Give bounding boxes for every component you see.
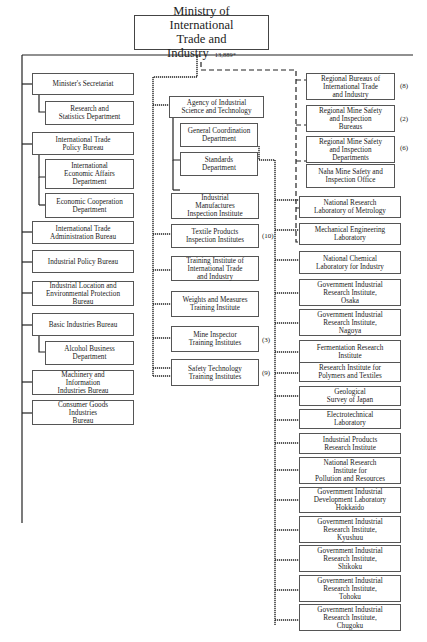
- box-label: Government Industrial Development Labora…: [314, 488, 386, 512]
- box-label: Safety Technology Training Institutes: [188, 365, 242, 381]
- box-label: International Trade Administration Burea…: [50, 225, 116, 241]
- box-label: International Trade Policy Bureau: [56, 136, 111, 152]
- bureau-industrial-location-environmental[interactable]: Industrial Location and Environmental Pr…: [32, 281, 134, 306]
- bureau-ministers-secretariat[interactable]: Minister's Secretariat: [32, 73, 134, 95]
- count-mine-safety-bureaus: (2): [400, 115, 408, 123]
- institute-industrial-manufactures-inspection[interactable]: Industrial Manufactures Inspection Insti…: [171, 193, 259, 219]
- agency-industrial-science-technology[interactable]: Agency of Industrial Science and Technol…: [169, 96, 264, 118]
- research-gov-chugoku[interactable]: Government Industrial Research Institute…: [299, 604, 401, 631]
- branch-regional-mine-safety-bureaus[interactable]: Regional Mine Safety and Inspection Bure…: [306, 105, 395, 132]
- box-label: Mechanical Engineering Laboratory: [315, 226, 385, 242]
- research-geological-survey[interactable]: Geological Survey of Japan: [299, 386, 401, 406]
- research-gov-tohoku[interactable]: Government Industrial Research Institute…: [299, 575, 401, 602]
- box-label: Minister's Secretariat: [53, 80, 114, 88]
- box-label: Machinery and Information Industries Bur…: [58, 371, 109, 395]
- ministry-name-line1: Ministry of International: [141, 4, 262, 32]
- count-mine-inspector: (3): [262, 336, 270, 344]
- box-label: Regional Bureaus of International Trade …: [321, 75, 380, 99]
- box-label: Mine Inspector Training Institutes: [189, 331, 242, 347]
- box-label: National Chemical Laboratory for Industr…: [316, 255, 384, 271]
- box-label: Research and Statistics Department: [59, 105, 121, 121]
- count-textile-inspection: (10): [262, 232, 274, 240]
- box-label: National Research Laboratory of Metrolog…: [314, 199, 386, 215]
- box-label: Basic Industries Bureau: [49, 321, 118, 329]
- research-metrology[interactable]: National Research Laboratory of Metrolog…: [299, 196, 401, 218]
- box-label: Weights and Measures Training Institute: [183, 296, 248, 312]
- research-electrotechnical[interactable]: Electrotechnical Laboratory: [299, 409, 401, 429]
- box-label: General Coordination Department: [188, 127, 250, 143]
- box-label: Research Institute for Polymers and Text…: [318, 364, 382, 380]
- research-fermentation[interactable]: Fermentation Research Institute: [299, 340, 401, 363]
- bureau-international-trade-administration[interactable]: International Trade Administration Burea…: [32, 221, 134, 244]
- box-label: Consumer Goods Industries Bureau: [58, 401, 108, 425]
- dept-general-coordination[interactable]: General Coordination Department: [180, 123, 258, 147]
- bureau-international-trade-policy[interactable]: International Trade Policy Bureau: [32, 132, 134, 155]
- dept-standards[interactable]: Standards Department: [180, 152, 258, 176]
- box-label: Industrial Products Research Institute: [323, 436, 378, 452]
- research-gov-osaka[interactable]: Government Industrial Research Institute…: [299, 279, 401, 306]
- box-label: International Economic Affairs Departmen…: [64, 162, 115, 186]
- box-label: Government Industrial Research Institute…: [317, 518, 382, 542]
- research-polymers-textiles[interactable]: Research Institute for Polymers and Text…: [299, 362, 401, 382]
- count-safety-technology: (9): [262, 369, 270, 377]
- box-label: Government Industrial Research Institute…: [317, 547, 382, 571]
- box-label: Economic Cooperation Department: [56, 198, 122, 214]
- research-industrial-products[interactable]: Industrial Products Research Institute: [299, 433, 401, 454]
- dept-alcohol-business[interactable]: Alcohol Business Department: [45, 341, 134, 365]
- research-gov-shikoku[interactable]: Government Industrial Research Institute…: [299, 545, 401, 572]
- box-label: Industrial Policy Bureau: [48, 258, 118, 266]
- box-label: Government Industrial Research Institute…: [317, 311, 382, 335]
- branch-regional-mine-safety-departments[interactable]: Regional Mine Safety and Inspection Depa…: [306, 136, 395, 163]
- dept-research-statistics[interactable]: Research and Statistics Department: [45, 101, 134, 125]
- ministry-staff-count: 13,889*: [215, 51, 236, 58]
- research-national-chemical[interactable]: National Chemical Laboratory for Industr…: [299, 251, 401, 274]
- branch-naha-mine-safety-office[interactable]: Naha Mine Safety and Inspection Office: [306, 164, 395, 188]
- institute-training-international-trade[interactable]: Training Institute of International Trad…: [171, 256, 259, 281]
- box-label: Regional Mine Safety and Inspection Depa…: [319, 138, 382, 162]
- box-label: Regional Mine Safety and Inspection Bure…: [319, 107, 382, 131]
- institute-safety-technology-training[interactable]: Safety Technology Training Institutes: [171, 359, 259, 386]
- institute-textile-products-inspection[interactable]: Textile Products Inspection Institutes: [171, 224, 259, 248]
- bureau-basic-industries[interactable]: Basic Industries Bureau: [32, 313, 134, 336]
- ministry-title-box: Ministry of International Trade and Indu…: [134, 15, 269, 50]
- box-label: Industrial Manufactures Inspection Insti…: [187, 194, 242, 218]
- bureau-machinery-information[interactable]: Machinery and Information Industries Bur…: [32, 370, 134, 395]
- box-label: Fermentation Research Institute: [317, 344, 383, 360]
- box-label: Training Institute of International Trad…: [186, 257, 244, 281]
- dept-economic-cooperation[interactable]: Economic Cooperation Department: [45, 193, 134, 218]
- bureau-industrial-policy[interactable]: Industrial Policy Bureau: [32, 250, 134, 273]
- dept-international-economic-affairs[interactable]: International Economic Affairs Departmen…: [45, 159, 134, 189]
- box-label: Standards Department: [202, 156, 236, 172]
- box-label: Government Industrial Research Institute…: [317, 281, 382, 305]
- box-label: Agency of Industrial Science and Technol…: [181, 99, 251, 115]
- box-label: Government Industrial Research Institute…: [317, 577, 382, 601]
- box-label: National Research Institute for Pollutio…: [315, 459, 385, 483]
- research-mechanical-engineering[interactable]: Mechanical Engineering Laboratory: [299, 223, 401, 245]
- count-mine-safety-departments: (6): [400, 144, 408, 152]
- box-label: Industrial Location and Environmental Pr…: [46, 282, 120, 306]
- bureau-consumer-goods[interactable]: Consumer Goods Industries Bureau: [32, 400, 134, 425]
- institute-weights-measures-training[interactable]: Weights and Measures Training Institute: [171, 291, 259, 317]
- research-gov-kyushuu[interactable]: Government Industrial Research Institute…: [299, 516, 401, 543]
- research-pollution-resources[interactable]: National Research Institute for Pollutio…: [299, 457, 401, 484]
- research-gov-dev-hokkaido[interactable]: Government Industrial Development Labora…: [299, 487, 401, 513]
- institute-mine-inspector-training[interactable]: Mine Inspector Training Institutes: [171, 326, 259, 352]
- box-label: Government Industrial Research Institute…: [317, 606, 382, 630]
- count-regional-bureaus: (8): [400, 82, 408, 90]
- box-label: Alcohol Business Department: [64, 345, 115, 361]
- branch-regional-bureaus-trade-industry[interactable]: Regional Bureaus of International Trade …: [306, 73, 395, 100]
- box-label: Geological Survey of Japan: [327, 388, 373, 404]
- box-label: Electrotechnical Laboratory: [327, 411, 374, 427]
- box-label: Textile Products Inspection Institutes: [186, 228, 244, 244]
- box-label: Naha Mine Safety and Inspection Office: [318, 168, 382, 184]
- research-gov-nagoya[interactable]: Government Industrial Research Institute…: [299, 309, 401, 336]
